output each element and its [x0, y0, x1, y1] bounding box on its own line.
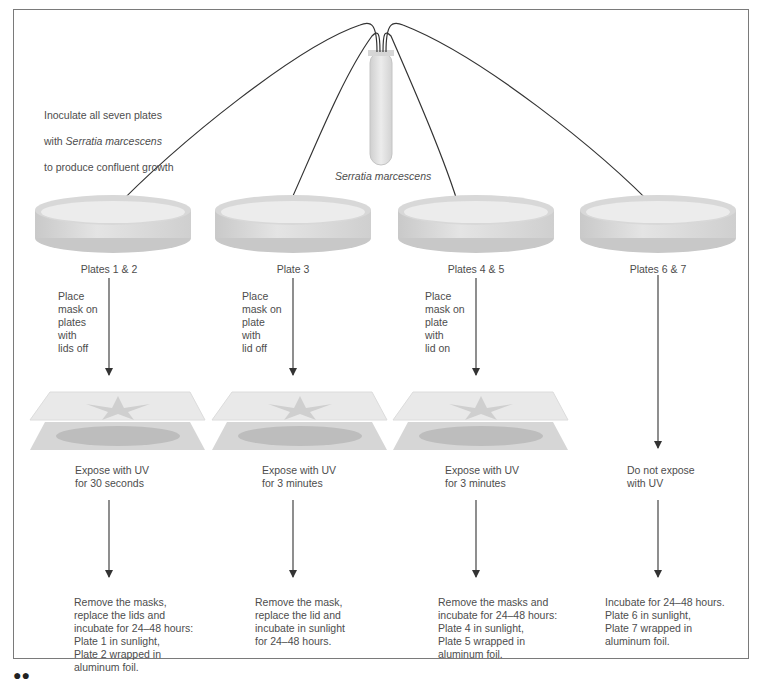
intro-text: Inoculate all seven plates with Serratia… [44, 96, 174, 174]
uv-mask-icons [30, 392, 568, 450]
intro-line-1: Inoculate all seven plates [44, 109, 162, 121]
uv-step-1: Expose with UV for 30 seconds [75, 464, 149, 490]
tube-label: Serratia marcescens [335, 170, 431, 183]
intro-line-2-prefix: with [44, 135, 66, 147]
incubate-step-3: Remove the masks and incubate for 24–48 … [438, 596, 557, 661]
plate-label-4: Plates 6 & 7 [598, 263, 718, 276]
uv-step-4: Do not expose with UV [627, 464, 695, 490]
figure-number-fragment: ●● [13, 668, 30, 684]
plate-label-3: Plates 4 & 5 [416, 263, 536, 276]
mask-step-3: Place mask on plate with lid on [425, 290, 465, 355]
plate-label-1: Plates 1 & 2 [49, 263, 169, 276]
mask-step-2: Place mask on plate with lid off [242, 290, 282, 355]
petri-dish-icons [35, 195, 736, 253]
incubate-step-2: Remove the mask, replace the lid and inc… [255, 596, 345, 648]
uv-step-2: Expose with UV for 3 minutes [262, 464, 336, 490]
organism-name: Serratia marcescens [66, 135, 162, 147]
incubate-step-1: Remove the masks, replace the lids and i… [74, 596, 193, 674]
mask-step-1: Place mask on plates with lids off [58, 290, 98, 355]
test-tube-icon [368, 50, 394, 165]
plate-label-2: Plate 3 [233, 263, 353, 276]
incubate-step-4: Incubate for 24–48 hours. Plate 6 in sun… [605, 596, 725, 648]
uv-step-3: Expose with UV for 3 minutes [445, 464, 519, 490]
intro-line-3: to produce confluent growth [44, 161, 174, 173]
